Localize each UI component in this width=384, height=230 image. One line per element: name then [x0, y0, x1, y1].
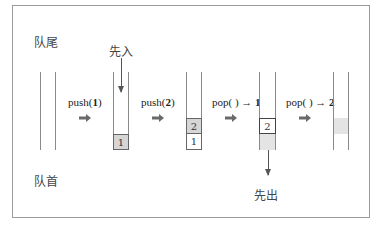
operation-push-1: push(1)	[68, 96, 102, 108]
operation-pop-1: pop( ) → 1	[212, 96, 261, 108]
first-out-arrow-icon	[268, 150, 269, 175]
queue-cell: 2	[186, 118, 202, 134]
queue-wall-right	[55, 72, 56, 150]
queue-wall-right	[348, 72, 349, 150]
operation-push-2: push(2)	[141, 96, 175, 108]
first-in-arrow-icon	[121, 58, 122, 92]
diagram-frame	[12, 5, 370, 218]
queue-wall-left	[333, 72, 334, 150]
right-arrow-icon	[152, 114, 164, 122]
queue-wall-right	[275, 72, 276, 150]
right-arrow-icon	[79, 114, 91, 122]
queue-cell: 1	[186, 133, 202, 150]
queue-cell-empty	[334, 118, 348, 134]
queue-head-label: 队首	[34, 172, 58, 189]
queue-cell-empty	[260, 134, 275, 150]
right-arrow-icon	[299, 114, 311, 122]
queue-wall-left	[40, 72, 41, 150]
first-out-label: 先出	[254, 186, 278, 203]
first-in-label: 先入	[109, 42, 133, 59]
queue-cell: 1	[113, 134, 129, 150]
right-arrow-icon	[225, 114, 237, 122]
operation-pop-2: pop( ) → 2	[286, 96, 335, 108]
queue-cell: 2	[259, 118, 276, 134]
queue-tail-label: 队尾	[34, 33, 58, 50]
